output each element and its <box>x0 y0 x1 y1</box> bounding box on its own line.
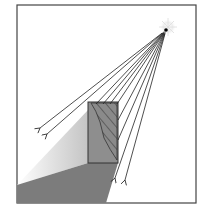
shadow-diagram <box>0 0 203 211</box>
object-box <box>88 102 118 163</box>
sun-icon <box>164 28 168 32</box>
